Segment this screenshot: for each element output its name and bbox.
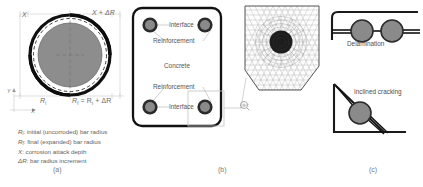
legend-row-0: Ri: initial (uncorroded) bar radius: [18, 128, 107, 138]
annotation-reinforcement-top: Reinforcement: [153, 37, 195, 44]
legend-row-3: ΔR: bar radius increment: [18, 157, 107, 165]
panel-c-cracking-patterns: Delamination Inclined cracking (c): [318, 0, 423, 187]
annotation-interface-top: Interface: [169, 21, 194, 28]
label-initial-radius: Ri: [40, 97, 46, 106]
label-final-radius: Rf = Ri + ΔR: [72, 97, 111, 106]
panel-c-delamination-drawing: [322, 6, 423, 68]
panel-a-corroded-bar-geometry: X X + ΔR Ri Rf = Ri + ΔR Y X Ri: initial…: [0, 0, 140, 187]
legend-row-1: Rf: final (expanded) bar radius: [18, 138, 107, 148]
annotation-interface-bottom: Interface: [169, 103, 194, 110]
panel-b-label: (b): [218, 166, 227, 173]
panel-a-drawing: [0, 0, 140, 125]
rebar-inclined-cracking: [349, 102, 371, 124]
cover-outline-top: [332, 12, 418, 40]
label-delamination: Delamination: [347, 40, 384, 47]
panel-a-label: (a): [53, 166, 62, 173]
label-attack-depth-plus-dR: X + ΔR: [92, 9, 115, 16]
figure-root: X X + ΔR Ri Rf = Ri + ΔR Y X Ri: initial…: [0, 0, 423, 187]
label-inclined-cracking: Inclined cracking: [354, 88, 402, 95]
panel-a-legend: Ri: initial (uncorroded) bar radius Rf: …: [18, 128, 107, 165]
axis-label-y: Y: [7, 88, 11, 94]
finite-element-mesh-detail: [243, 4, 321, 108]
rebar-bottom-right-core: [200, 102, 210, 112]
rebar-bottom-left-core: [145, 102, 155, 112]
label-attack-depth-X: X: [22, 11, 27, 18]
rebar-top-right-core: [200, 20, 210, 30]
annotation-concrete: Concrete: [164, 62, 190, 69]
panel-c-inclined-cracking-drawing: [322, 76, 423, 148]
rebar-delamination-right: [381, 20, 403, 42]
rebar-top-left-core: [145, 20, 155, 30]
mesh-drawing: [243, 4, 321, 108]
legend-row-2: X: corrosion attack depth: [18, 148, 107, 156]
rebar-delamination-left: [351, 20, 373, 42]
annotation-reinforcement-bottom: Reinforcement: [153, 83, 195, 90]
panel-c-label: (c): [369, 166, 377, 173]
axis-label-x: X: [31, 108, 35, 114]
